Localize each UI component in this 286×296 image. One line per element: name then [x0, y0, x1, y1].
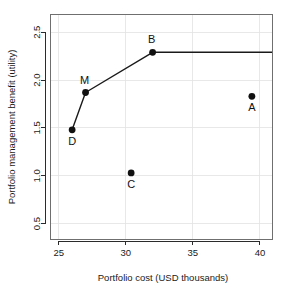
y-tick-label: 1.5	[31, 121, 42, 134]
data-point-d	[69, 126, 76, 133]
data-point-label-a: A	[248, 101, 256, 113]
y-tick-label: 1.0	[31, 169, 42, 182]
x-tick-label: 35	[188, 247, 199, 258]
x-axis-title: Portfolio cost (USD thousands)	[98, 272, 228, 283]
x-tick-label: 30	[120, 247, 131, 258]
data-point-a	[248, 93, 255, 100]
y-tick-label: 2.0	[31, 73, 42, 86]
x-tick-label: 25	[53, 247, 64, 258]
plot-background	[0, 0, 286, 296]
data-point-c	[128, 170, 135, 177]
data-point-label-m: M	[80, 74, 89, 86]
scatter-plot-svg: 0.51.01.52.02.525303540 ABCDM Portfolio …	[0, 0, 286, 296]
y-tick-label: 0.5	[31, 217, 42, 230]
chart-figure: 0.51.01.52.02.525303540 ABCDM Portfolio …	[0, 0, 286, 296]
data-point-label-b: B	[148, 33, 155, 45]
y-tick-label: 2.5	[31, 26, 42, 39]
data-point-label-c: C	[127, 178, 135, 190]
x-tick-label: 40	[255, 247, 266, 258]
data-point-m	[82, 89, 89, 96]
y-axis-title: Portfolio management benefit (utility)	[6, 50, 17, 205]
data-point-label-d: D	[68, 135, 76, 147]
data-point-b	[149, 49, 156, 56]
